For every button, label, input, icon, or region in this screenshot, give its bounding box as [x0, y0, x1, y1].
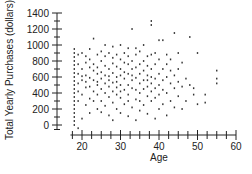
data-point: [131, 75, 132, 77]
x-axis-title: Age: [150, 152, 168, 163]
y-tick-label: 200: [32, 104, 49, 115]
data-point: [112, 91, 113, 93]
data-point: [185, 100, 186, 102]
data-point: [143, 60, 144, 62]
data-point: [74, 80, 75, 82]
data-point: [85, 75, 86, 77]
data-point: [77, 100, 78, 102]
data-point: [178, 68, 179, 70]
data-point: [77, 83, 78, 85]
data-points: [74, 20, 218, 129]
data-point: [97, 73, 98, 75]
data-point: [216, 83, 217, 85]
data-point: [158, 108, 159, 110]
data-point: [74, 120, 75, 122]
data-point: [147, 95, 148, 97]
data-point: [154, 87, 155, 89]
data-point: [131, 28, 132, 30]
data-point: [124, 52, 125, 54]
data-point: [151, 20, 152, 22]
data-point: [120, 59, 121, 61]
data-point: [120, 75, 121, 77]
data-point: [181, 86, 182, 88]
data-point: [120, 97, 121, 99]
data-point: [193, 87, 194, 89]
data-point: [147, 86, 148, 88]
data-point: [147, 65, 148, 67]
data-point: [108, 75, 109, 77]
data-point: [154, 78, 155, 80]
data-point: [104, 92, 105, 94]
data-point: [151, 100, 152, 102]
data-point: [108, 96, 109, 98]
data-point: [74, 52, 75, 54]
data-point: [205, 94, 206, 96]
data-point: [124, 103, 125, 105]
data-point: [81, 79, 82, 81]
data-point: [128, 73, 129, 75]
scatter-chart: 0200400600800100012001400 2030405060 Tot…: [0, 0, 252, 174]
data-point: [166, 92, 167, 94]
data-point: [143, 79, 144, 81]
data-point: [154, 52, 155, 54]
data-point: [116, 54, 117, 56]
data-point: [101, 88, 102, 90]
data-point: [74, 84, 75, 86]
data-point: [139, 83, 140, 85]
data-point: [108, 79, 109, 81]
data-point: [77, 91, 78, 93]
data-point: [77, 54, 78, 56]
data-point: [147, 55, 148, 57]
data-point: [162, 39, 163, 41]
data-point: [116, 81, 117, 83]
data-point: [151, 91, 152, 93]
data-point: [104, 105, 105, 107]
data-point: [189, 36, 190, 38]
data-point: [74, 64, 75, 66]
data-point: [158, 84, 159, 86]
data-point: [74, 60, 75, 62]
data-point: [143, 44, 144, 46]
data-point: [85, 81, 86, 83]
y-tick-label: 600: [32, 72, 49, 83]
data-point: [112, 72, 113, 74]
data-point: [128, 94, 129, 96]
data-point: [174, 107, 175, 109]
data-point: [162, 103, 163, 105]
data-point: [116, 94, 117, 96]
data-point: [112, 46, 113, 48]
data-point: [101, 100, 102, 102]
data-point: [197, 52, 198, 54]
data-point: [135, 77, 136, 79]
data-point: [89, 98, 90, 100]
data-point: [154, 63, 155, 65]
data-point: [147, 75, 148, 77]
data-point: [74, 124, 75, 126]
data-point: [89, 112, 90, 114]
data-point: [139, 63, 140, 65]
data-point: [81, 75, 82, 77]
data-point: [85, 55, 86, 57]
y-tick-label: 1000: [27, 40, 50, 51]
data-point: [143, 88, 144, 90]
data-point: [97, 81, 98, 83]
data-point: [162, 89, 163, 91]
data-point: [128, 63, 129, 65]
data-point: [143, 70, 144, 72]
data-point: [81, 68, 82, 70]
data-point: [104, 65, 105, 67]
data-point: [128, 47, 129, 49]
data-point: [120, 68, 121, 70]
data-point: [139, 73, 140, 75]
data-point: [112, 82, 113, 84]
data-point: [74, 112, 75, 114]
data-point: [77, 127, 78, 129]
data-point: [128, 55, 129, 57]
data-point: [135, 47, 136, 49]
data-point: [74, 116, 75, 118]
data-point: [162, 79, 163, 81]
data-point: [116, 76, 117, 78]
data-point: [158, 94, 159, 96]
x-tick-label: 60: [230, 141, 242, 152]
data-point: [104, 83, 105, 85]
